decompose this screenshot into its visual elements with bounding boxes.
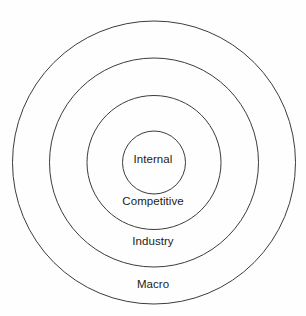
concentric-rings-diagram: Internal Competitive Industry Macro [0, 0, 306, 316]
ring-label-industry: Industry [0, 235, 306, 248]
ring-label-internal: Internal [0, 153, 306, 166]
ring-label-competitive: Competitive [0, 195, 306, 208]
ring-label-macro: Macro [0, 278, 306, 291]
